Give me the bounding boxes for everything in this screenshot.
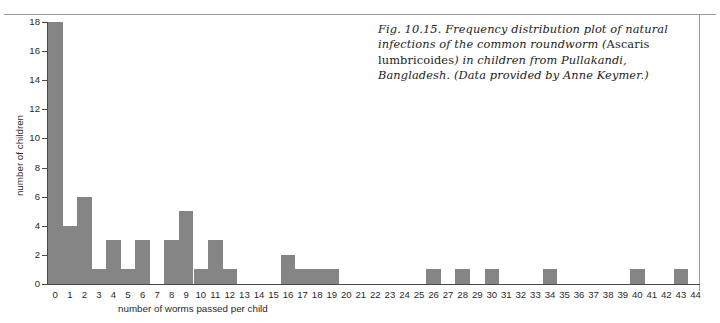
bar: [164, 240, 179, 284]
y-axis-tick: [42, 80, 47, 81]
y-axis-title: number of children: [14, 96, 25, 216]
bar: [324, 269, 339, 284]
y-axis-tick-label: 10: [22, 132, 40, 143]
bar: [48, 22, 63, 284]
bar: [426, 269, 441, 284]
y-axis-tick-label: 12: [22, 103, 40, 114]
figure-container: Fig. 10.15. Frequency distribution plot …: [0, 0, 720, 323]
bar: [135, 240, 150, 284]
y-axis-tick-label: 16: [22, 45, 40, 56]
bar: [121, 269, 136, 284]
x-axis-tick-label: 44: [687, 289, 703, 300]
y-axis-tick: [42, 22, 47, 23]
y-axis-tick: [42, 51, 47, 52]
bar: [63, 226, 78, 284]
bar: [281, 255, 296, 284]
y-axis-tick-label: 18: [22, 16, 40, 27]
x-axis-title: number of worms passed per child: [118, 303, 268, 314]
y-axis-tick: [42, 226, 47, 227]
bar: [543, 269, 558, 284]
y-axis-tick: [42, 197, 47, 198]
bar: [630, 269, 645, 284]
bar: [92, 269, 107, 284]
y-axis-tick-label: 4: [22, 220, 40, 231]
bar: [674, 269, 689, 284]
y-axis-tick: [42, 168, 47, 169]
y-axis-tick: [42, 109, 47, 110]
y-axis-tick: [42, 138, 47, 139]
y-axis-tick: [42, 255, 47, 256]
y-axis-tick-label: 8: [22, 162, 40, 173]
bar: [106, 240, 121, 284]
bar: [310, 269, 325, 284]
bar: [295, 269, 310, 284]
y-axis-tick-label: 2: [22, 249, 40, 260]
bar: [485, 269, 500, 284]
bar: [194, 269, 209, 284]
y-axis-tick-label: 6: [22, 191, 40, 202]
y-axis-tick-label: 0: [22, 278, 40, 289]
bar: [208, 240, 223, 284]
bar: [179, 211, 194, 284]
y-axis-tick-label: 14: [22, 74, 40, 85]
x-axis-line: [47, 284, 700, 285]
bar: [223, 269, 238, 284]
y-axis-tick: [42, 284, 47, 285]
bar: [77, 197, 92, 284]
bar: [455, 269, 470, 284]
bar-series: [48, 22, 704, 284]
bar-chart-plot: 024681012141618 012345678910111213141516…: [0, 0, 720, 323]
